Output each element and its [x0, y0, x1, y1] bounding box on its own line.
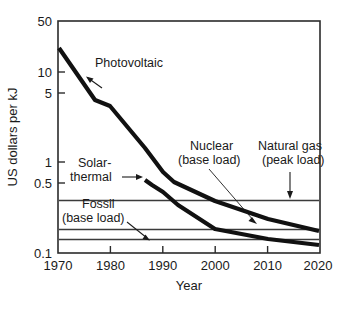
annotation-nuclear-label-line2: (base load) — [178, 153, 241, 167]
figure-caption — [0, 295, 343, 309]
annotation-solar-thermal-label-line2: thermal — [70, 170, 112, 184]
annotation-fossil-label-line2: (base load) — [62, 211, 125, 225]
x-tick-label-1990: 1990 — [148, 258, 177, 273]
annotation-nuclear-leader — [209, 169, 257, 224]
y-tick-label-0-5: 0.5 — [34, 176, 52, 191]
annotation-fossil-arrow — [127, 222, 150, 241]
chart-container: 50 10 5 1 0.5 0.1 US dollars per kJ 1970… — [0, 0, 343, 309]
energy-cost-line-chart: 50 10 5 1 0.5 0.1 US dollars per kJ 1970… — [0, 0, 343, 309]
annotation-photovoltaic-arrow — [86, 77, 102, 89]
annotation-nuclear-label-line1: Nuclear — [190, 139, 233, 153]
x-tick-label-1970: 1970 — [44, 258, 73, 273]
annotation-natural-gas-arrow — [287, 172, 293, 199]
annotation-natural-gas-label-line1: Natural gas — [258, 139, 322, 153]
x-tick-label-2020: 2020 — [304, 258, 333, 273]
annotation-fossil-label-line1: Fossil — [82, 197, 115, 211]
y-tick-label-5: 5 — [45, 86, 52, 101]
annotation-solar-thermal-label-line1: Solar- — [78, 156, 111, 170]
y-tick-label-10: 10 — [38, 65, 52, 80]
x-tick-label-2000: 2000 — [201, 258, 230, 273]
y-axis-title: US dollars per kJ — [5, 88, 20, 187]
annotation-solar-thermal-arrow — [122, 174, 143, 180]
y-tick-label-50: 50 — [38, 14, 52, 29]
x-axis-ticks — [110, 246, 267, 253]
y-tick-label-1: 1 — [45, 155, 52, 170]
x-tick-label-1980: 1980 — [96, 258, 125, 273]
series-solar-thermal-line — [145, 180, 319, 245]
annotation-natural-gas-label-line2: (peak load) — [262, 153, 325, 167]
x-axis-title: Year — [176, 278, 203, 293]
y-axis-ticks — [58, 72, 65, 183]
annotation-photovoltaic-label: Photovoltaic — [95, 56, 163, 70]
x-tick-label-2010: 2010 — [253, 258, 282, 273]
